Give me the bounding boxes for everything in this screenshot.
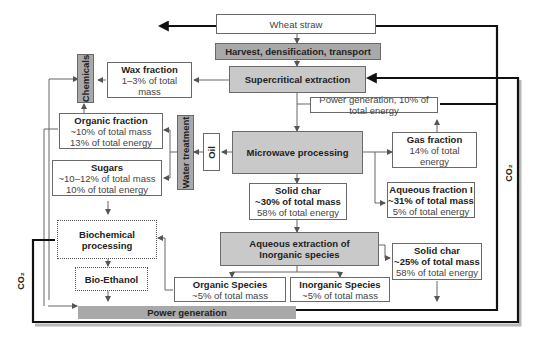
node-label: Microwave processing xyxy=(247,147,349,158)
node-sugars: Sugars ~10–12% of total mass 10% of tota… xyxy=(52,160,162,196)
node-oil: Oil xyxy=(203,133,220,171)
node-line: Inorganic species xyxy=(259,249,339,260)
node-chemicals: Chemicals xyxy=(77,54,94,103)
node-solid-char-1: Solid char ~30% of total mass 58% of tot… xyxy=(249,183,347,220)
node-organic-species: Organic Species ~5% of total mass xyxy=(174,277,286,302)
node-label: Wheat straw xyxy=(270,19,323,30)
node-harvest: Harvest, densification, transport xyxy=(215,43,381,60)
node-title: Solid char xyxy=(414,245,460,256)
node-title: Inorganic Species xyxy=(299,279,380,290)
node-supercritical-extraction: Supercritical extraction xyxy=(229,66,366,93)
node-line: Aqueous extraction of xyxy=(249,238,349,249)
node-title: Wax fraction xyxy=(121,64,178,75)
node-label: Bio-Ethanol xyxy=(85,274,138,285)
node-wax-fraction: Wax fraction 1–3% of total mass xyxy=(107,62,192,98)
node-label: Supercritical extraction xyxy=(245,74,351,85)
node-wheat-straw: Wheat straw xyxy=(216,14,376,34)
node-bio-ethanol: Bio-Ethanol xyxy=(75,267,148,291)
node-title: Aqueous fraction I xyxy=(389,184,472,195)
node-line: 1–3% of total xyxy=(122,75,177,86)
node-line: ~10–12% of total mass xyxy=(59,173,156,184)
node-line: processing xyxy=(82,240,133,251)
node-microwave-processing: Microwave processing xyxy=(232,131,363,174)
co2-label-right: CO₂ xyxy=(504,164,514,182)
node-line: ~25% of total mass xyxy=(394,256,480,267)
node-organic-fraction: Organic fraction ~10% of total mass 13% … xyxy=(59,113,163,149)
node-title: Sugars xyxy=(91,162,123,173)
node-line: ~31% of total mass xyxy=(388,195,474,206)
node-power-generation-bottom: Power generation xyxy=(78,306,296,319)
node-biochemical-processing: Biochemical processing xyxy=(57,220,157,259)
node-line: ~10% of total mass xyxy=(70,126,151,137)
node-aqueous-fraction: Aqueous fraction I ~31% of total mass 5%… xyxy=(387,182,475,218)
node-label: Chemicals xyxy=(80,55,91,103)
node-line: mass xyxy=(138,86,161,97)
node-line: ~5% of total mass xyxy=(192,290,268,301)
node-title: Organic Species xyxy=(193,279,267,290)
co2-label-left: CO₂ xyxy=(16,272,26,290)
node-label: Power generation, 10% of total energy xyxy=(311,94,437,116)
node-label: Oil xyxy=(206,146,217,159)
node-label: Power generation xyxy=(147,307,227,318)
node-line: ~30% of total mass xyxy=(255,196,341,207)
node-power-generation-top: Power generation, 10% of total energy xyxy=(310,97,438,113)
node-aqueous-extraction: Aqueous extraction of Inorganic species xyxy=(220,232,379,266)
node-line: 10% of total energy xyxy=(66,184,148,195)
node-solid-char-2: Solid char ~25% of total mass 58% of tot… xyxy=(392,243,482,280)
node-title: Organic fraction xyxy=(74,115,147,126)
node-line: energy xyxy=(420,156,449,167)
node-line: 5% of total energy xyxy=(393,206,470,217)
node-title: Gas fraction xyxy=(407,134,462,145)
node-line: Biochemical xyxy=(79,229,135,240)
node-line: 58% of total energy xyxy=(396,267,478,278)
node-label: Harvest, densification, transport xyxy=(225,46,371,57)
node-water-treatment: Water treatment xyxy=(177,115,194,190)
node-inorganic-species: Inorganic Species ~5% of total mass xyxy=(290,277,390,302)
node-line: 14% of total xyxy=(409,145,459,156)
node-line: 13% of total energy xyxy=(70,137,152,148)
node-line: ~5% of total mass xyxy=(302,290,378,301)
node-gas-fraction: Gas fraction 14% of total energy xyxy=(392,132,477,168)
node-label: Water treatment xyxy=(180,117,191,189)
node-line: 58% of total energy xyxy=(257,207,339,218)
node-title: Solid char xyxy=(275,185,321,196)
